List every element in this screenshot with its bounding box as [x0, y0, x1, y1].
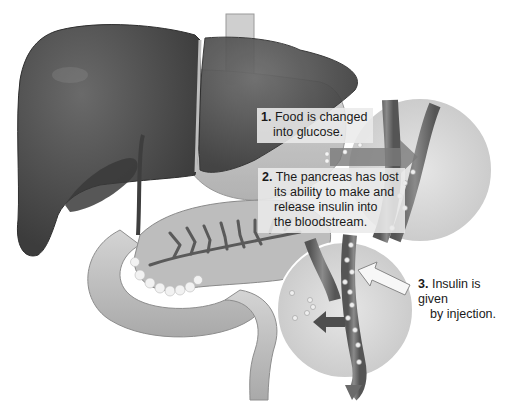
callout-1: 1. Food is changed into glucose.	[257, 108, 373, 143]
callout-3-number: 3.	[418, 277, 428, 291]
anatomy-illustration	[0, 0, 513, 409]
callout-1-line1: Food is changed	[275, 110, 367, 124]
callout-2: 2. The pancreas has lost its ability to …	[258, 168, 405, 233]
callout-2-line4: the bloodstream.	[262, 215, 399, 230]
callout-1-number: 1.	[261, 110, 271, 124]
callout-2-number: 2.	[262, 170, 272, 184]
diabetes-diagram: 1. Food is changed into glucose. 2. The …	[0, 0, 513, 409]
callout-2-line3: release insulin into	[262, 200, 399, 215]
callout-3-line2: by injection.	[418, 307, 513, 322]
callout-2-line2: its ability to make and	[262, 185, 399, 200]
callout-1-line2: into glucose.	[261, 125, 367, 140]
callout-2-line1: The pancreas has lost	[276, 170, 399, 184]
callout-3-line1: Insulin is given	[418, 277, 481, 306]
callout-3: 3. Insulin is given by injection.	[418, 277, 513, 322]
